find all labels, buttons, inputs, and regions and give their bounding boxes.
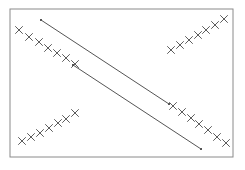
plot-background (0, 0, 245, 170)
line-endpoint-dot (40, 19, 42, 21)
line-endpoint-dot (200, 148, 202, 150)
figure-root (0, 0, 245, 170)
scatter-plot-canvas (0, 0, 245, 170)
